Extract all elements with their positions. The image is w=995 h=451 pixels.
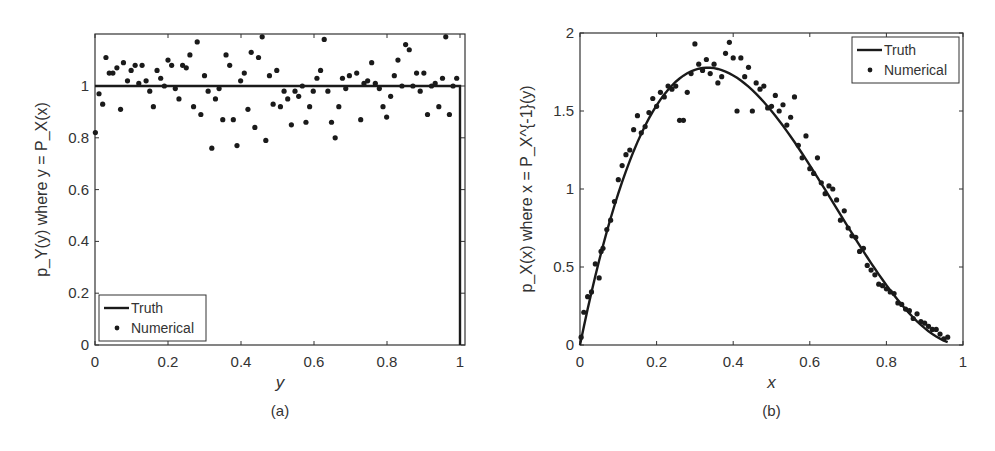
numerical-point — [154, 68, 159, 73]
x-tick-label: 0.8 — [876, 353, 897, 370]
numerical-point — [650, 96, 655, 101]
numerical-point — [176, 96, 181, 101]
numerical-point — [195, 39, 200, 44]
numerical-point — [627, 147, 632, 152]
numerical-point — [635, 113, 640, 118]
numerical-point — [173, 86, 178, 91]
numerical-point — [907, 308, 912, 313]
numerical-point — [347, 73, 352, 78]
numerical-point — [777, 108, 782, 113]
numerical-point — [811, 171, 816, 176]
numerical-point — [868, 268, 873, 273]
numerical-point — [202, 73, 207, 78]
numerical-point — [96, 91, 101, 96]
x-tick-label: 0.4 — [723, 353, 744, 370]
numerical-point — [407, 47, 412, 52]
numerical-point — [447, 112, 452, 117]
numerical-point — [819, 180, 824, 185]
numerical-point — [662, 94, 667, 99]
numerical-point — [274, 68, 279, 73]
x-tick-label: 0.2 — [158, 353, 179, 370]
numerical-point — [589, 289, 594, 294]
numerical-point — [162, 83, 167, 88]
numerical-point — [773, 93, 778, 98]
numerical-point — [358, 117, 363, 122]
numerical-point — [114, 65, 119, 70]
y-tick-label: 1.5 — [553, 102, 574, 119]
numerical-point — [692, 41, 697, 46]
numerical-point — [296, 94, 301, 99]
numerical-point — [93, 130, 98, 135]
numerical-point — [256, 55, 261, 60]
numerical-point — [399, 83, 404, 88]
numerical-point — [608, 218, 613, 223]
numerical-point — [125, 78, 130, 83]
legend-label-numerical: Numerical — [884, 62, 947, 78]
numerical-point — [911, 316, 916, 321]
x-tick-label: 0.8 — [377, 353, 398, 370]
numerical-point — [945, 335, 950, 340]
numerical-point — [184, 65, 189, 70]
numerical-point — [865, 263, 870, 268]
numerical-point — [373, 81, 378, 86]
numerical-point — [688, 71, 693, 76]
numerical-point — [440, 76, 445, 81]
numerical-point — [242, 70, 247, 75]
numerical-point — [410, 83, 415, 88]
x-tick-label: 0 — [91, 353, 99, 370]
numerical-point — [620, 163, 625, 168]
numerical-point — [377, 86, 382, 91]
numerical-point — [579, 335, 584, 340]
numerical-point — [788, 115, 793, 120]
numerical-point — [830, 186, 835, 191]
numerical-point — [307, 104, 312, 109]
numerical-point — [914, 311, 919, 316]
numerical-point — [842, 208, 847, 213]
y-tick-label: 0.6 — [68, 181, 89, 198]
numerical-point — [711, 62, 716, 67]
numerical-point — [934, 327, 939, 332]
y-tick-label: 0.5 — [553, 258, 574, 275]
numerical-point — [343, 86, 348, 91]
numerical-point — [285, 96, 290, 101]
numerical-point — [418, 89, 423, 94]
numerical-point — [380, 104, 385, 109]
numerical-point — [245, 107, 250, 112]
numerical-point — [329, 120, 334, 125]
numerical-point — [803, 133, 808, 138]
figure: 00.20.40.60.8100.20.40.60.81y(a)p_Y(y) w… — [0, 0, 995, 451]
chart-panel-a: 00.20.40.60.8100.20.40.60.81y(a)p_Y(y) w… — [33, 34, 465, 419]
numerical-point — [761, 83, 766, 88]
x-tick-label: 0.6 — [304, 353, 325, 370]
numerical-point — [133, 63, 138, 68]
numerical-point — [581, 310, 586, 315]
x-tick-label: 0.6 — [799, 353, 820, 370]
numerical-point — [209, 146, 214, 151]
x-tick-label: 0.2 — [646, 353, 667, 370]
numerical-point — [727, 40, 732, 45]
numerical-point — [807, 166, 812, 171]
numerical-point — [754, 80, 759, 85]
x-tick-label: 0.4 — [231, 353, 252, 370]
numerical-point — [223, 52, 228, 57]
numerical-point — [750, 108, 755, 113]
numerical-point — [780, 102, 785, 107]
numerical-point — [144, 78, 149, 83]
numerical-point — [227, 63, 232, 68]
numerical-point — [719, 74, 724, 79]
numerical-point — [696, 62, 701, 67]
numerical-point — [425, 112, 430, 117]
y-tick-label: 1 — [566, 180, 574, 197]
numerical-point — [121, 60, 126, 65]
y-axis-label: p_X(x) where x = P_X^{-1}(y) — [518, 85, 536, 292]
numerical-point — [853, 235, 858, 240]
chart-panel-b: 00.20.40.60.8100.511.52x(b)p_X(x) where … — [518, 24, 967, 419]
numerical-point — [597, 275, 602, 280]
panel-caption: (a) — [271, 402, 289, 419]
numerical-point — [746, 65, 751, 70]
numerical-point — [433, 81, 438, 86]
numerical-point — [800, 155, 805, 160]
numerical-point — [365, 78, 370, 83]
numerical-point — [388, 94, 393, 99]
numerical-point — [899, 302, 904, 307]
